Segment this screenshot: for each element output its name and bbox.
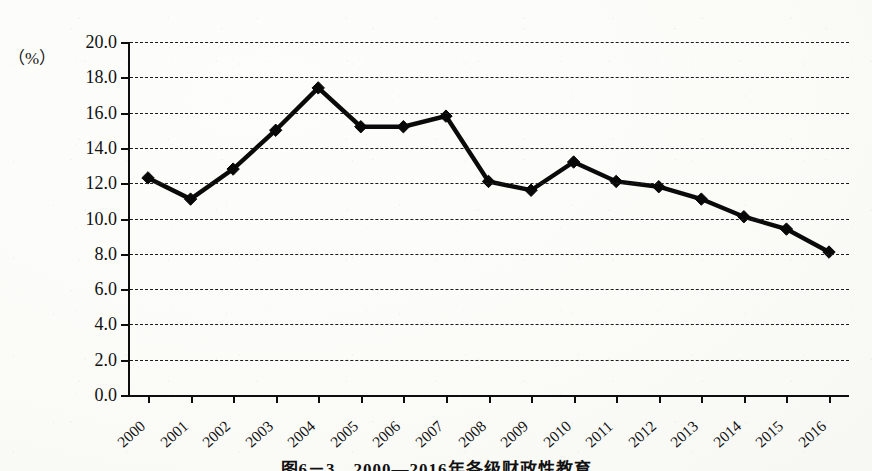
y-axis-tick	[121, 77, 130, 79]
y-axis-tick-label: 2.0	[55, 349, 117, 370]
figure-container: （%） 0.02.04.06.08.010.012.014.016.018.02…	[0, 0, 872, 471]
y-axis-tick-label: 18.0	[55, 67, 117, 88]
x-axis-tick-label: 2014	[710, 417, 745, 451]
y-axis-tick-label: 20.0	[55, 32, 117, 53]
x-axis-tick	[829, 395, 831, 403]
y-axis-tick-label: 0.0	[55, 385, 117, 406]
y-axis-tick	[121, 183, 130, 185]
x-axis-tick	[659, 395, 661, 403]
y-axis-tick	[121, 254, 130, 256]
y-axis-tick	[121, 324, 130, 326]
data-point-marker	[695, 193, 707, 205]
y-axis-tick-label: 16.0	[55, 102, 117, 123]
y-axis-tick-label: 14.0	[55, 137, 117, 158]
x-axis-tick	[148, 395, 150, 403]
data-point-marker	[397, 121, 409, 133]
y-axis-tick	[121, 219, 130, 221]
y-axis-tick	[121, 395, 130, 397]
x-axis-tick-label: 2001	[156, 417, 191, 451]
x-axis-tick-label: 2008	[454, 417, 489, 451]
x-axis-tick-label: 2005	[327, 417, 362, 451]
data-point-marker	[738, 211, 750, 223]
x-axis-tick-label: 2004	[284, 417, 319, 451]
x-axis-tick-label: 2012	[625, 417, 660, 451]
y-axis-tick-label: 10.0	[55, 208, 117, 229]
y-axis-tick	[121, 148, 130, 150]
x-axis-tick	[786, 395, 788, 403]
x-axis-tick	[403, 395, 405, 403]
x-axis-tick	[744, 395, 746, 403]
plot-area: 0.02.04.06.08.010.012.014.016.018.020.02…	[128, 42, 849, 397]
x-axis-tick	[233, 395, 235, 403]
gridline	[130, 219, 849, 220]
gridline	[130, 289, 849, 290]
x-axis-tick-label: 2009	[497, 417, 532, 451]
y-axis-unit-label: （%）	[8, 44, 56, 69]
y-axis-tick	[121, 360, 130, 362]
x-axis-tick-label: 2002	[199, 417, 234, 451]
x-axis-tick	[318, 395, 320, 403]
y-axis-tick	[121, 42, 130, 44]
gridline	[130, 42, 849, 43]
y-axis-tick-label: 12.0	[55, 173, 117, 194]
x-axis-tick	[361, 395, 363, 403]
x-axis-tick-label: 2016	[795, 417, 830, 451]
y-axis-tick	[121, 289, 130, 291]
y-axis-tick-label: 6.0	[55, 279, 117, 300]
x-axis-tick-label: 2006	[369, 417, 404, 451]
x-axis-tick	[446, 395, 448, 403]
x-axis-tick-label: 2003	[242, 417, 277, 451]
x-axis-tick-label: 2000	[114, 417, 149, 451]
y-axis-tick-label: 8.0	[55, 243, 117, 264]
x-axis-tick-label: 2010	[539, 417, 574, 451]
gridline	[130, 113, 849, 114]
y-axis-tick	[121, 113, 130, 115]
gridline	[130, 324, 849, 325]
x-axis-tick-label: 2015	[752, 417, 787, 451]
x-axis-tick	[191, 395, 193, 403]
x-axis-tick	[574, 395, 576, 403]
x-axis-tick-label: 2007	[412, 417, 447, 451]
figure-caption: 图6－3 2000—2016年各级财政性教育	[0, 455, 872, 471]
gridline	[130, 77, 849, 78]
x-axis-tick-label: 2013	[667, 417, 702, 451]
gridline	[130, 254, 849, 255]
gridline	[130, 360, 849, 361]
gridline	[130, 148, 849, 149]
x-axis-tick	[531, 395, 533, 403]
y-axis-tick-label: 4.0	[55, 314, 117, 335]
x-axis-tick	[616, 395, 618, 403]
x-axis-tick	[489, 395, 491, 403]
x-axis-tick-label: 2011	[582, 417, 617, 451]
x-axis-tick	[276, 395, 278, 403]
x-axis-tick	[701, 395, 703, 403]
gridline	[130, 183, 849, 184]
